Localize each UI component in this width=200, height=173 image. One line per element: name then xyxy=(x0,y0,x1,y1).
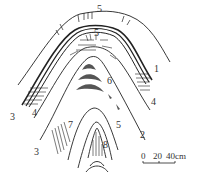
fold-diagram xyxy=(0,0,200,173)
scale-tick-40cm: 40cm xyxy=(166,151,186,161)
label-layer-3-lower: 3 xyxy=(34,147,39,157)
scale-tick-20: 20 xyxy=(153,151,162,161)
scale-bar xyxy=(143,161,175,163)
label-layer-3-left: 3 xyxy=(10,112,15,122)
label-layer-2: 2 xyxy=(140,130,145,140)
label-layer-8: 8 xyxy=(103,140,108,150)
label-layer-5-top: 5 xyxy=(97,4,102,14)
label-layer-4-right: 4 xyxy=(151,97,156,107)
label-layer-1: 1 xyxy=(154,64,159,74)
right-hatch xyxy=(135,74,150,90)
label-layer-7: 7 xyxy=(68,120,73,130)
label-layer-5-inner: 5 xyxy=(94,28,99,38)
scale-tick-0: 0 xyxy=(141,151,146,161)
label-layer-6: 6 xyxy=(107,76,112,86)
label-layer-5-lower: 5 xyxy=(116,120,121,130)
label-layer-4-left: 4 xyxy=(32,108,37,118)
outer-hatch xyxy=(56,12,130,35)
dark-lenses xyxy=(76,64,120,110)
